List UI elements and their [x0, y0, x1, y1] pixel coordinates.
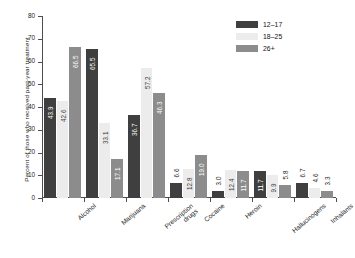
bar-value-label: 3.3: [324, 176, 331, 185]
x-tick: [168, 198, 169, 202]
y-tick-label: 10: [28, 171, 35, 178]
x-category-label: Heroin: [244, 202, 264, 220]
bar: 43.9: [44, 98, 56, 198]
bar: 11.7: [237, 171, 249, 198]
bar: 4.6: [309, 188, 321, 198]
bar-value-label: 36.7: [131, 123, 138, 136]
bar-value-label: 33.1: [101, 131, 108, 144]
bar: 9.9: [267, 175, 279, 198]
legend-swatch: [236, 21, 258, 28]
bar-value-label: 3.0: [215, 177, 222, 186]
bar-value-label: 12.8: [185, 177, 192, 190]
bar-value-label: 66.5: [72, 55, 79, 68]
bar-value-label: 6.7: [299, 168, 306, 177]
bar-value-label: 46.3: [156, 101, 163, 114]
bar-value-label: 11.7: [257, 180, 264, 192]
bar-value-label: 19.0: [198, 163, 205, 176]
bar: 11.7: [254, 171, 266, 198]
bar: 5.8: [279, 185, 291, 198]
y-tick-label: 60: [28, 57, 35, 64]
legend-item: 26+: [236, 42, 282, 54]
legend-label: 18–25: [263, 33, 282, 40]
y-tick-label: 30: [28, 125, 35, 132]
legend-item: 12–17: [236, 18, 282, 30]
x-tick: [126, 198, 127, 202]
bar-value-label: 4.6: [311, 173, 318, 182]
bars-layer: 43.942.666.565.533.117.136.757.246.36.61…: [42, 16, 336, 198]
x-category-label-line: Alcohol: [76, 202, 97, 222]
bar: 12.8: [183, 169, 195, 198]
bar: 12.4: [225, 170, 237, 198]
bar: 66.5: [69, 47, 81, 198]
y-tick-label: 0: [31, 194, 35, 201]
bar: 6.6: [170, 183, 182, 198]
x-category-label-line: Cocaine: [203, 202, 226, 223]
x-tick: [42, 198, 43, 202]
x-tick: [294, 198, 295, 202]
bar: 3.3: [321, 191, 333, 199]
bar-value-label: 43.9: [47, 107, 54, 120]
bar: 36.7: [128, 115, 140, 198]
x-category-label: Cocaine: [203, 202, 226, 223]
legend-label: 12–17: [263, 21, 282, 28]
x-category-label-line: Inhalants: [329, 202, 354, 225]
bar-value-label: 42.6: [59, 110, 66, 123]
bar: 46.3: [153, 93, 165, 198]
legend: 12–1718–2526+: [236, 18, 282, 54]
bar-value-label: 65.5: [89, 58, 96, 71]
x-category-label: Alcohol: [76, 202, 97, 222]
x-category-label: Inhalants: [329, 202, 354, 225]
bar: 33.1: [99, 123, 111, 198]
x-tick: [210, 198, 211, 202]
x-category-label-line: Marijuana: [120, 202, 147, 226]
y-tick-label: 50: [28, 80, 35, 87]
y-tick-label: 70: [28, 34, 35, 41]
y-tick-label: 80: [28, 12, 35, 19]
legend-label: 26+: [263, 45, 275, 52]
bar-value-label: 5.8: [282, 170, 289, 179]
x-tick: [336, 198, 337, 202]
bar: 6.7: [296, 183, 308, 198]
y-tick-label: 20: [28, 148, 35, 155]
x-category-label: Hallucinogens: [291, 202, 327, 234]
bar-value-label: 57.2: [143, 76, 150, 89]
bar-value-label: 9.9: [269, 184, 276, 193]
legend-swatch: [236, 45, 258, 52]
bar-value-label: 17.1: [114, 168, 121, 181]
bar: 65.5: [86, 49, 98, 198]
x-category-label: Prescriptiondrugs: [163, 202, 199, 236]
x-tick: [84, 198, 85, 202]
legend-item: 18–25: [236, 30, 282, 42]
bar: 57.2: [141, 68, 153, 198]
plot-area: 01020304050607080 43.942.666.565.533.117…: [42, 16, 336, 198]
bar: 19.0: [195, 155, 207, 198]
bar: 3.0: [212, 191, 224, 198]
bar-value-label: 11.7: [240, 180, 247, 192]
bar-value-label: 12.4: [227, 178, 234, 191]
bar: 42.6: [57, 101, 69, 198]
y-tick-label: 40: [28, 103, 35, 110]
legend-swatch: [236, 33, 258, 40]
bar: 17.1: [111, 159, 123, 198]
x-category-label-line: Hallucinogens: [291, 202, 327, 234]
bar-value-label: 6.6: [173, 169, 180, 178]
x-tick: [252, 198, 253, 202]
x-category-label: Marijuana: [120, 202, 147, 226]
x-category-label-line: Heroin: [244, 202, 264, 220]
